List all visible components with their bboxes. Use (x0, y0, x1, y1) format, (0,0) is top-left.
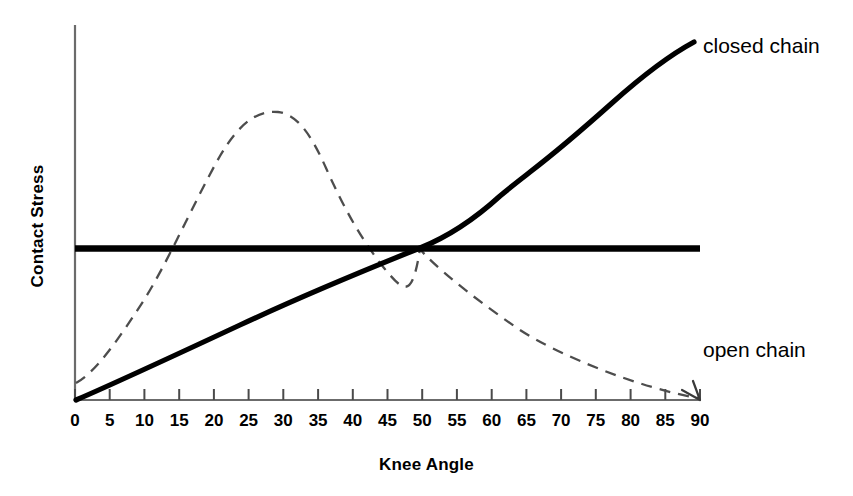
closed-chain-curve (76, 42, 694, 400)
y-axis-title: Contact Stress (28, 126, 48, 326)
scan-edge-artifact (0, 488, 853, 496)
closed-chain-label: closed chain (703, 34, 820, 58)
open-chain-label: open chain (703, 338, 806, 362)
x-axis-title: Knee Angle (0, 455, 853, 475)
x-tick-label-90: 90 (680, 411, 720, 431)
x-axis-ticks (75, 389, 700, 400)
chart-figure: 0 5 10 15 20 25 30 35 40 45 50 55 60 65 … (0, 0, 853, 496)
